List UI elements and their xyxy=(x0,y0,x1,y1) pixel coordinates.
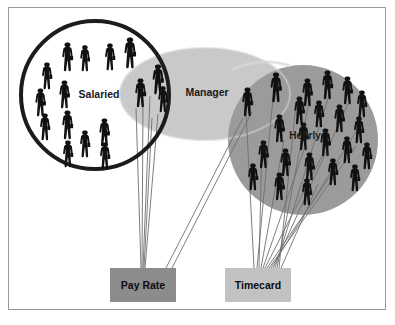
group-label-hourly: Hourly xyxy=(289,130,321,141)
group-label-salaried: Salaried xyxy=(79,88,120,100)
diagram-scene: Salaried Manager Hourly Pay Rate Timecar… xyxy=(0,0,395,325)
group-label-manager: Manager xyxy=(185,86,228,98)
target-label-pay-rate: Pay Rate xyxy=(121,279,166,291)
target-label-timecard: Timecard xyxy=(235,279,282,291)
venn-diagram-canvas: Salaried Manager Hourly Pay Rate Timecar… xyxy=(0,0,395,325)
connector-line xyxy=(136,108,141,268)
target-box-timecard[interactable]: Timecard xyxy=(225,268,291,302)
target-box-pay-rate[interactable]: Pay Rate xyxy=(110,268,176,302)
